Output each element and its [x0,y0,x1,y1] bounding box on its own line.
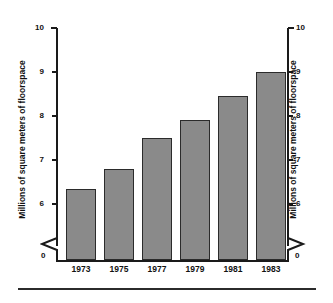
x-tick-label-1977: 1977 [137,264,177,274]
y-tick-label-left-6: 6 [40,200,44,208]
y-tick-label-right-10: 10 [296,24,305,32]
y-axis-title-right: Millions of square meters of floorspace [289,60,298,220]
bar-1979 [180,120,210,260]
x-axis-baseline [56,260,289,262]
y-zero-label-left: 0 [41,252,45,260]
y-tick-label-left-9: 9 [40,68,44,76]
bars-group [57,28,287,260]
bottom-rule-divider [18,288,316,290]
x-tick-label-1983: 1983 [251,264,291,274]
bar-1977 [142,138,172,260]
bar-1981 [218,96,248,260]
x-tick-labels: 1973 1975 1977 1979 1981 1983 [57,264,287,278]
x-tick-label-1975: 1975 [99,264,139,274]
y-tick-label-left-10: 10 [35,24,44,32]
x-tick-label-1973: 1973 [61,264,101,274]
y-tick-label-left-7: 7 [40,156,44,164]
bar-1975 [104,169,134,260]
y-tick-label-left-8: 8 [40,112,44,120]
x-tick-label-1981: 1981 [213,264,253,274]
y-zero-label-right: 0 [295,252,299,260]
y-axis-title-left: Millions of square meters of floorspace [18,60,27,220]
bar-chart-figure: 10 9 8 7 6 10 9 8 7 6 0 0 1973 1 [0,0,333,303]
x-tick-label-1979: 1979 [175,264,215,274]
bar-1983 [256,72,286,260]
y-tick-right-10 [288,27,293,29]
bar-1973 [66,189,96,260]
